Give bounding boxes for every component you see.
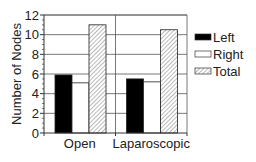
bars-group xyxy=(55,25,178,133)
bar-chart: 024681012 OpenLaparoscopic Number of Nod… xyxy=(0,0,256,162)
y-tick-label: 2 xyxy=(32,106,39,121)
y-tick-label: 12 xyxy=(25,8,39,23)
legend-swatch-total xyxy=(195,68,211,74)
legend-swatch-right xyxy=(195,51,211,57)
y-tick-label: 10 xyxy=(25,27,39,42)
x-tick-label: Open xyxy=(64,136,96,151)
x-tick-label: Laparoscopic xyxy=(113,136,191,151)
x-axis: OpenLaparoscopic xyxy=(44,133,190,151)
y-tick-label: 6 xyxy=(32,67,39,82)
bar-total-laparoscopic xyxy=(161,30,178,133)
y-tick-label: 0 xyxy=(32,126,39,141)
legend-swatch-left xyxy=(195,34,211,40)
bar-left-laparoscopic xyxy=(127,79,144,133)
bar-right-open xyxy=(72,83,89,133)
bar-left-open xyxy=(55,75,72,133)
legend-label-total: Total xyxy=(213,64,241,79)
bar-right-laparoscopic xyxy=(144,82,161,133)
y-tick-label: 8 xyxy=(32,47,39,62)
legend-label-left: Left xyxy=(213,30,235,45)
y-axis-title: Number of Nodes xyxy=(9,23,24,125)
legend-label-right: Right xyxy=(213,47,244,62)
y-tick-label: 4 xyxy=(32,86,39,101)
bar-total-open xyxy=(89,25,106,133)
legend: LeftRightTotal xyxy=(195,30,244,79)
y-axis: 024681012 xyxy=(25,8,44,141)
